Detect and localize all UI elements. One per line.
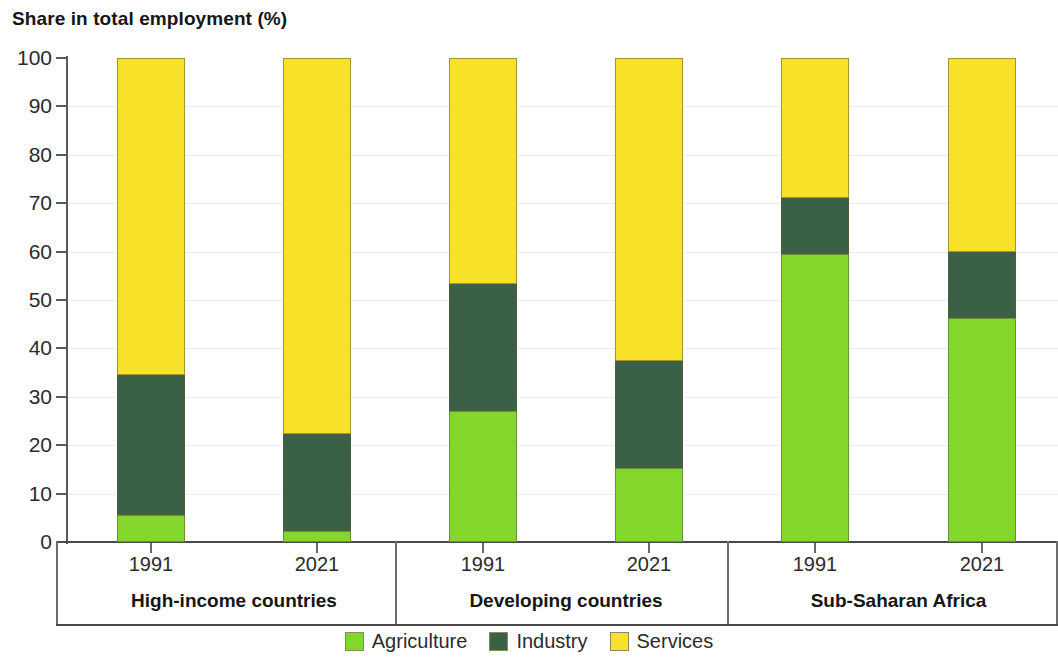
bar-segment-industry[interactable] [948, 252, 1016, 318]
y-axis-tick-label: 70 [4, 191, 52, 215]
gridline [66, 203, 1058, 204]
y-axis-tick-label: 40 [4, 336, 52, 360]
legend: AgricultureIndustryServices [0, 630, 1058, 653]
x-axis-year-label: 2021 [257, 553, 377, 576]
bar-segment-services[interactable] [781, 58, 849, 198]
bar-segment-agriculture[interactable] [948, 318, 1016, 542]
gridline [66, 494, 1058, 495]
page-title: Share in total employment (%) [12, 8, 287, 30]
legend-label: Agriculture [372, 630, 468, 653]
x-axis-year-label: 2021 [922, 553, 1042, 576]
y-axis-tick-label: 50 [4, 288, 52, 312]
legend-label: Services [637, 630, 714, 653]
gridline [66, 155, 1058, 156]
y-axis-tick-label: 60 [4, 240, 52, 264]
group-separator [395, 541, 397, 625]
x-axis-tick-mark [981, 543, 983, 553]
bar-segment-services[interactable] [117, 58, 185, 375]
bar-segment-agriculture[interactable] [449, 411, 517, 542]
y-axis-tick-label: 80 [4, 143, 52, 167]
bar-stack[interactable] [283, 58, 351, 542]
bar-segment-industry[interactable] [449, 284, 517, 411]
y-axis-tick-label: 10 [4, 482, 52, 506]
bar-segment-industry[interactable] [283, 434, 351, 531]
plot-area [66, 58, 1058, 542]
bar-stack[interactable] [117, 58, 185, 542]
x-axis-year-label: 1991 [423, 553, 543, 576]
x-axis-year-label: 2021 [589, 553, 709, 576]
x-axis-tick-mark [482, 543, 484, 553]
bottom-rule [56, 624, 1058, 626]
bar-stack[interactable] [615, 58, 683, 542]
y-axis-tick-label: 100 [4, 46, 52, 70]
bar-stack[interactable] [781, 58, 849, 542]
x-axis-tick-mark [150, 543, 152, 553]
bar-segment-services[interactable] [948, 58, 1016, 252]
x-axis-year-label: 1991 [755, 553, 875, 576]
x-axis-group-label: Developing countries [396, 590, 736, 612]
bar-segment-agriculture[interactable] [283, 531, 351, 542]
bar-segment-industry[interactable] [615, 361, 683, 468]
y-axis-tick-label: 30 [4, 385, 52, 409]
legend-swatch-icon [345, 632, 364, 651]
gridline [66, 397, 1058, 398]
legend-swatch-icon [489, 632, 508, 651]
x-axis-year-label: 1991 [91, 553, 211, 576]
bar-segment-industry[interactable] [117, 375, 185, 515]
x-axis-tick-mark [316, 543, 318, 553]
bar-segment-industry[interactable] [781, 198, 849, 254]
bar-segment-agriculture[interactable] [117, 515, 185, 542]
y-axis-tick-label: 20 [4, 433, 52, 457]
x-axis-group-label: Sub-Saharan Africa [729, 590, 1058, 612]
gridline [66, 106, 1058, 107]
gridline [66, 252, 1058, 253]
bar-stack[interactable] [948, 58, 1016, 542]
group-separator [727, 541, 729, 625]
x-axis-line [56, 541, 1058, 543]
gridline [66, 348, 1058, 349]
group-separator [56, 541, 58, 625]
y-axis-tick-label: 90 [4, 94, 52, 118]
y-axis-labels: 0102030405060708090100 [0, 0, 52, 600]
legend-item[interactable]: Industry [489, 630, 587, 653]
legend-item[interactable]: Services [610, 630, 714, 653]
gridline [66, 445, 1058, 446]
y-axis-tick-label: 0 [4, 530, 52, 554]
legend-item[interactable]: Agriculture [345, 630, 468, 653]
y-axis-line [66, 56, 68, 544]
bar-stack[interactable] [449, 58, 517, 542]
x-axis-tick-mark [648, 543, 650, 553]
bar-segment-agriculture[interactable] [615, 468, 683, 542]
bar-segment-services[interactable] [449, 58, 517, 284]
bar-segment-services[interactable] [615, 58, 683, 361]
x-axis-tick-mark [814, 543, 816, 553]
bar-segment-agriculture[interactable] [781, 254, 849, 542]
legend-label: Industry [516, 630, 587, 653]
x-axis-group-label: High-income countries [64, 590, 404, 612]
legend-swatch-icon [610, 632, 629, 651]
gridline [66, 300, 1058, 301]
bar-segment-services[interactable] [283, 58, 351, 434]
